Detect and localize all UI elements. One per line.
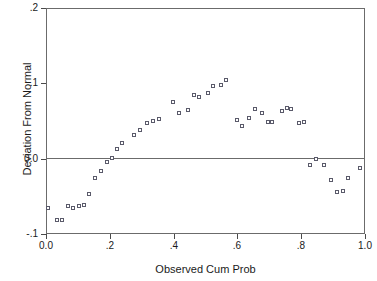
- data-point: [358, 166, 362, 170]
- x-axis-tick: [46, 234, 47, 239]
- data-point: [308, 163, 312, 167]
- data-point: [145, 121, 149, 125]
- data-point: [206, 91, 210, 95]
- x-axis-tick-label: 1.0: [350, 241, 377, 251]
- data-point: [253, 107, 257, 111]
- data-point: [346, 176, 350, 180]
- data-point: [87, 192, 91, 196]
- x-axis-tick: [237, 234, 238, 239]
- data-point: [177, 111, 181, 115]
- data-point: [110, 156, 114, 160]
- data-point: [211, 84, 215, 88]
- x-axis-tick-label: .6: [222, 241, 252, 251]
- data-point: [302, 120, 306, 124]
- y-axis-tick-label: .2: [30, 3, 38, 13]
- x-axis-tick: [174, 234, 175, 239]
- data-point: [46, 206, 50, 210]
- data-point: [71, 206, 75, 210]
- data-point: [219, 83, 223, 87]
- data-point: [240, 124, 244, 128]
- data-point: [197, 95, 201, 99]
- data-point: [55, 218, 59, 222]
- data-point: [60, 218, 64, 222]
- x-axis-tick: [365, 234, 366, 239]
- data-point: [289, 107, 293, 111]
- data-point: [93, 176, 97, 180]
- data-point: [224, 78, 228, 82]
- data-point: [280, 109, 284, 113]
- data-point: [171, 100, 175, 104]
- data-point: [120, 141, 124, 145]
- data-point: [132, 133, 136, 137]
- data-point: [341, 189, 345, 193]
- data-point: [322, 163, 326, 167]
- data-point: [314, 157, 318, 161]
- data-point: [77, 204, 81, 208]
- data-point: [260, 111, 264, 115]
- data-point: [157, 117, 161, 121]
- data-point: [192, 93, 196, 97]
- data-point: [138, 128, 142, 132]
- x-axis-tick: [301, 234, 302, 239]
- x-axis-tick-label: 0.0: [31, 241, 61, 251]
- data-point: [186, 108, 190, 112]
- data-point: [247, 116, 251, 120]
- y-axis-title: Deviation From Normal: [21, 29, 33, 209]
- data-point: [105, 160, 109, 164]
- data-point: [335, 190, 339, 194]
- data-point: [82, 203, 86, 207]
- data-point: [297, 121, 301, 125]
- x-axis-tick-label: .2: [95, 241, 125, 251]
- data-point: [235, 118, 239, 122]
- x-axis-title: Observed Cum Prob: [46, 263, 365, 275]
- y-axis-tick: [41, 83, 46, 84]
- data-point: [151, 119, 155, 123]
- data-point: [115, 147, 119, 151]
- x-axis-tick: [110, 234, 111, 239]
- plot-area: [46, 8, 365, 234]
- y-axis-tick: [41, 8, 46, 9]
- x-axis-tick-label: .4: [159, 241, 189, 251]
- data-point: [270, 120, 274, 124]
- data-point: [329, 178, 333, 182]
- data-point: [66, 204, 70, 208]
- data-point: [99, 169, 103, 173]
- y-axis-tick-label: -.1: [26, 229, 38, 239]
- y-axis-tick: [41, 159, 46, 160]
- x-axis-tick-label: .8: [286, 241, 316, 251]
